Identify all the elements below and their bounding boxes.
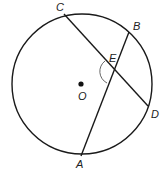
label-c: C — [56, 1, 64, 13]
circle-diagram: C B E O D A — [0, 0, 162, 171]
label-b: B — [133, 20, 140, 32]
center-point-o — [78, 81, 83, 86]
label-a: A — [75, 158, 83, 170]
label-e: E — [109, 52, 117, 64]
angle-arc-mark — [100, 61, 107, 83]
chord-ab — [81, 32, 129, 156]
label-o: O — [78, 90, 87, 102]
label-d: D — [151, 108, 159, 120]
